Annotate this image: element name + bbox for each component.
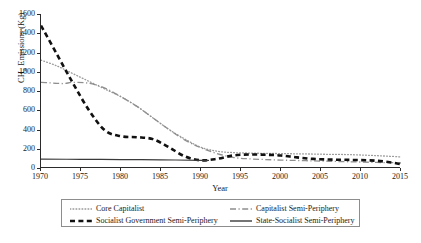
- chart-page: CH4 Emissions (Kg) 020040060080010001200…: [0, 0, 421, 243]
- x-tick-label: 1990: [180, 173, 220, 181]
- x-tick-label: 1985: [140, 173, 180, 181]
- x-tick-label: 2015: [380, 173, 420, 181]
- x-tick-mark: [360, 168, 361, 171]
- legend-column-left: Core Capitalist Socialist Government Sem…: [62, 200, 230, 226]
- series-line-core-capitalist: [41, 60, 401, 157]
- x-tick-label: 1970: [20, 173, 60, 181]
- series-line-state-socialist-semi-periphery: [41, 159, 209, 160]
- plot-area: [40, 14, 400, 168]
- y-tick-label: 1200: [5, 49, 35, 57]
- legend-swatch-dashdot-icon: [230, 204, 252, 214]
- y-tick-label: 400: [5, 126, 35, 134]
- y-tick-label: 1600: [5, 10, 35, 18]
- y-tick-label: 800: [5, 87, 35, 95]
- x-tick-label: 2005: [300, 173, 340, 181]
- legend-item-state-socialist-semi-periphery: State-Socialist Semi-Periphery: [230, 214, 354, 227]
- y-tick-label: 600: [5, 106, 35, 114]
- x-axis-title: Year: [40, 183, 400, 193]
- y-axis-title-rest: Emissions (Kg): [16, 13, 26, 68]
- x-tick-label: 2010: [340, 173, 380, 181]
- legend-label-core-capitalist: Core Capitalist: [96, 205, 144, 213]
- legend-item-socialist-government-semi-periphery: Socialist Government Semi-Periphery: [70, 214, 218, 227]
- x-tick-mark: [320, 168, 321, 171]
- x-tick-mark: [80, 168, 81, 171]
- legend-swatch-solid-icon: [230, 216, 252, 226]
- legend-label-capitalist-semi-periphery: Capitalist Semi-Periphery: [256, 205, 339, 213]
- legend-label-state-socialist-semi-periphery: State-Socialist Semi-Periphery: [256, 217, 354, 225]
- y-tick-label: 0: [5, 164, 35, 172]
- x-tick-mark: [40, 168, 41, 171]
- x-tick-mark: [160, 168, 161, 171]
- x-tick-mark: [240, 168, 241, 171]
- x-tick-mark: [280, 168, 281, 171]
- x-tick-label: 1975: [60, 173, 100, 181]
- y-tick-label: 200: [5, 145, 35, 153]
- x-tick-mark: [120, 168, 121, 171]
- y-tick-label: 1400: [5, 29, 35, 37]
- x-tick-label: 2000: [260, 173, 300, 181]
- line-chart-figure: CH4 Emissions (Kg) 020040060080010001200…: [0, 0, 421, 243]
- series-line-socialist-government-semi-periphery: [41, 26, 401, 165]
- series-canvas: [41, 14, 401, 168]
- legend-label-socialist-government-semi-periphery: Socialist Government Semi-Periphery: [96, 217, 218, 225]
- x-tick-mark: [200, 168, 201, 171]
- x-tick-label: 1980: [100, 173, 140, 181]
- legend-swatch-dashed-icon: [70, 216, 92, 226]
- y-tick-label: 1000: [5, 68, 35, 76]
- legend-swatch-dotted-icon: [70, 204, 92, 214]
- legend-column-right: Capitalist Semi-Periphery State-Socialis…: [230, 200, 361, 226]
- chart-legend: Core Capitalist Socialist Government Sem…: [61, 199, 360, 227]
- x-tick-mark: [400, 168, 401, 171]
- x-tick-label: 1995: [220, 173, 260, 181]
- series-line-capitalist-semi-periphery: [41, 82, 401, 163]
